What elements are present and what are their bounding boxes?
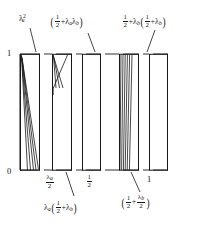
- subscript-b-inner: b: [159, 20, 162, 26]
- subscript-b: b: [70, 206, 73, 212]
- x-tick-lambda-a-over-2: λa 2: [45, 174, 54, 190]
- frac-one-half: 1 2: [87, 174, 93, 189]
- frac-one-half: 12: [126, 195, 132, 210]
- denominator-two: 2: [55, 21, 61, 29]
- diagram-svg: [0, 0, 215, 235]
- x-tick-one: 1: [147, 174, 151, 184]
- paren-close: ): [73, 201, 76, 214]
- denominator-two: 2: [145, 21, 151, 29]
- denominator-two: 2: [126, 202, 132, 210]
- label-half-plus-lambda-a-lambda-b: (12+λaλb): [50, 14, 83, 29]
- numerator-one: 1: [87, 174, 93, 181]
- denominator-two: 2: [123, 21, 129, 29]
- numerator-one: 1: [123, 14, 129, 21]
- block-4: [119, 54, 139, 171]
- label-half-plus-lambda-b-group: 12+λb(12+λb): [122, 14, 166, 29]
- frac-lambda-b-over-2: λb2: [137, 194, 145, 210]
- numerator-one: 1: [145, 14, 151, 21]
- block-2-hatch: [53, 55, 67, 95]
- block-2: [52, 54, 72, 171]
- paren-close: ): [162, 15, 165, 28]
- x-tick-one-half: 1 2: [86, 174, 93, 189]
- denominator-two: 2: [87, 181, 93, 189]
- block-3: [82, 54, 101, 171]
- y-tick-zero: 0: [7, 166, 11, 176]
- block-5: [149, 54, 168, 171]
- block-1: [20, 54, 40, 171]
- block-1-hatch: [22, 55, 39, 170]
- paren-close: ): [79, 15, 82, 28]
- figure-canvas: 1 0 λa 2 1 2 1 λ2a (12+λaλb) 12+λb(12+λb…: [0, 0, 215, 235]
- label-lambda-a-times-half-plus-lambda-b: λa(12+λb): [44, 200, 77, 215]
- leader-lines: [30, 28, 155, 196]
- numerator-one: 1: [56, 200, 62, 207]
- denominator-two: 2: [46, 182, 54, 190]
- frac-one-half: 12: [123, 14, 129, 29]
- y-tick-one: 1: [7, 48, 11, 58]
- subscript-a: a: [50, 175, 53, 181]
- paren-open: (: [140, 15, 143, 28]
- frac-lambda-a-over-2: λa 2: [46, 174, 54, 190]
- denominator-two: 2: [56, 207, 62, 215]
- paren-open: (: [51, 201, 54, 214]
- frac-one-half: 12: [56, 200, 62, 215]
- numerator-one: 1: [126, 195, 132, 202]
- subscript-b: b: [137, 20, 140, 26]
- frac-one-half-inner: 12: [145, 14, 151, 29]
- block-4-hatch: [120, 55, 132, 170]
- subscript-a: a: [48, 206, 51, 212]
- label-lambda-a-squared: λ2a: [19, 14, 24, 24]
- paren-open: (: [51, 15, 54, 28]
- numerator-one: 1: [55, 14, 61, 21]
- subscript-b: b: [141, 195, 144, 201]
- frac-one-half: 12: [55, 14, 61, 29]
- paren-open: (: [122, 196, 125, 209]
- label-half-plus-lambda-b-over-2: (12+λb2): [121, 194, 150, 210]
- denominator-two: 2: [137, 202, 145, 210]
- paren-close: ): [146, 196, 149, 209]
- plus-sign: +: [132, 197, 137, 206]
- subscript-b: b: [76, 20, 79, 26]
